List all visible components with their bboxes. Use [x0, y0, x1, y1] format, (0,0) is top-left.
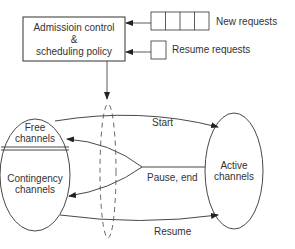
pause-end-label: Pause, end: [147, 172, 198, 184]
new-requests-label: New requests: [216, 16, 277, 28]
resume-requests-queue: [151, 41, 166, 59]
active-channels-label-2: channels: [204, 171, 264, 183]
resume-label: Resume: [154, 226, 191, 238]
new-requests-queue: [151, 12, 209, 30]
pause-to-contingency-arrow: [69, 167, 142, 196]
resume-arrow: [60, 215, 218, 221]
start-label: Start: [152, 117, 173, 129]
controller-label-line2: &: [23, 34, 125, 46]
controller-label-line1: Admissioin control: [23, 22, 125, 34]
resume-requests-label: Resume requests: [172, 44, 250, 56]
policy-boundary-dashed: [100, 104, 116, 238]
start-arrow: [55, 115, 218, 127]
free-channels-label-2: channels: [5, 133, 65, 145]
controller-label-line3: scheduling policy: [23, 46, 125, 58]
pause-to-free-arrow: [67, 139, 142, 167]
contingency-channels-label-2: channels: [2, 184, 68, 196]
